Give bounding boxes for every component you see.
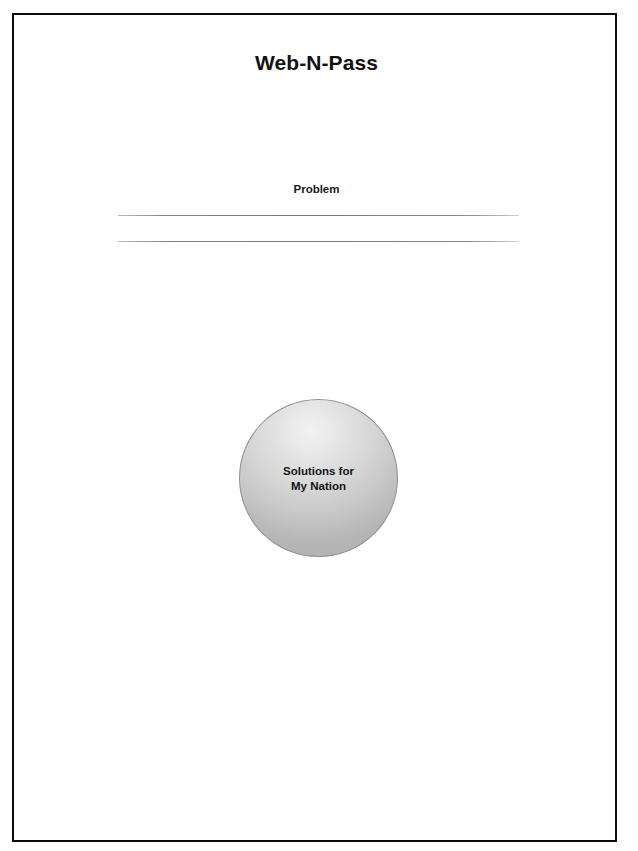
solution-bubble[interactable]: Solutions for My Nation [239, 399, 398, 557]
answer-write-in-line[interactable] [118, 215, 519, 216]
scanned-page: Web-N-Pass Problem Solutions for My Nati… [0, 0, 638, 851]
answer-write-in-line[interactable] [118, 241, 519, 242]
solution-bubble-label: Solutions for My Nation [283, 464, 354, 493]
page-border-frame: Web-N-Pass Problem Solutions for My Nati… [12, 13, 617, 842]
problem-heading: Problem [14, 183, 619, 195]
